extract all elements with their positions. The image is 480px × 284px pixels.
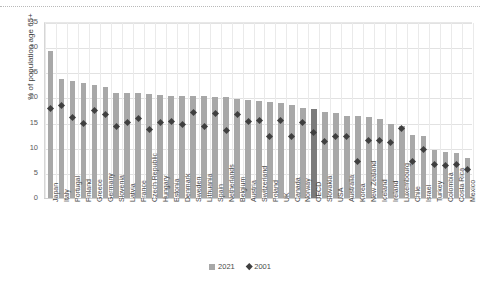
- gridline-vertical: [199, 23, 200, 198]
- x-axis-tick-label: Iceland: [381, 179, 388, 202]
- chart-legend: 2021 2001: [0, 262, 480, 271]
- gridline-vertical: [385, 23, 386, 198]
- x-axis-tick-label: Latvia: [129, 183, 136, 202]
- gridline-vertical: [297, 23, 298, 198]
- gridline-vertical: [56, 23, 57, 198]
- y-axis-tick-label: 25: [16, 68, 38, 76]
- gridline-vertical: [89, 23, 90, 198]
- x-axis-tick-label: Korea: [359, 183, 366, 202]
- x-axis-tick-label: Mexico: [469, 180, 476, 202]
- x-axis-tick-label: Germany: [107, 173, 114, 202]
- x-axis-tick-label: Poland: [272, 180, 279, 202]
- x-axis-tick-label: UK: [283, 192, 290, 202]
- gridline-vertical: [363, 23, 364, 198]
- gridline-vertical: [341, 23, 342, 198]
- x-axis-tick-label: Portugal: [74, 176, 81, 202]
- y-axis-tick-label: 5: [16, 169, 38, 177]
- gridline-vertical: [166, 23, 167, 198]
- x-axis-tick-label: Finland: [85, 179, 92, 202]
- gridline-vertical: [188, 23, 189, 198]
- y-axis-tick-label: 20: [16, 93, 38, 101]
- x-axis-tick-label: Italy: [63, 189, 70, 202]
- gridline-vertical: [243, 23, 244, 198]
- y-axis-tick-label: 35: [16, 18, 38, 26]
- x-axis-tick-label: OECD: [315, 182, 322, 202]
- x-axis-tick-label: Switzerland: [261, 166, 268, 202]
- gridline-vertical: [111, 23, 112, 198]
- bar-italy: [59, 79, 65, 198]
- gridline-vertical: [67, 23, 68, 198]
- x-axis-tick-label: Turkey: [436, 181, 443, 202]
- bar-usa: [333, 113, 339, 198]
- legend-label-2001: 2001: [254, 262, 271, 271]
- x-axis-tick-label: Spain: [217, 184, 224, 202]
- legend-item-2021: 2021: [209, 262, 235, 271]
- legend-item-2001: 2001: [247, 262, 271, 271]
- y-axis-tick-label: 0: [16, 194, 38, 202]
- bar-japan: [48, 51, 54, 198]
- x-axis-tick-label: USA: [337, 188, 344, 202]
- gridline-vertical: [133, 23, 134, 198]
- legend-label-2021: 2021: [218, 262, 235, 271]
- gridline-vertical: [45, 23, 46, 198]
- y-axis-tick-label: 30: [16, 43, 38, 51]
- gridline-vertical: [144, 23, 145, 198]
- gridline-vertical: [286, 23, 287, 198]
- legend-swatch-diamond-icon: [246, 263, 252, 269]
- x-axis-tick-label: Czech Republic: [151, 153, 158, 202]
- y-axis-tick-label: 15: [16, 119, 38, 127]
- x-axis-tick-label: Slovenia: [118, 175, 125, 202]
- x-axis-tick-label: Greece: [96, 179, 103, 202]
- gridline-vertical: [330, 23, 331, 198]
- gridline-vertical: [221, 23, 222, 198]
- x-axis-tick-label: Chile: [414, 186, 421, 202]
- x-axis-tick-label: France: [140, 180, 147, 202]
- x-axis-tick-label: Belgium: [239, 177, 246, 202]
- gridline-vertical: [275, 23, 276, 198]
- x-axis-tick-label: Denmark: [184, 174, 191, 202]
- x-axis-tick-label: Norway: [304, 178, 311, 202]
- x-axis-tick-label: Luxembourg: [403, 163, 410, 202]
- gridline-vertical: [473, 23, 474, 198]
- chart-screenshot: % of population age 65+ 05101520253035 J…: [0, 0, 480, 284]
- gridline-vertical: [396, 23, 397, 198]
- gridline-vertical: [352, 23, 353, 198]
- top-dotted-rule: [0, 6, 480, 7]
- gridline-vertical: [100, 23, 101, 198]
- gridline-vertical: [418, 23, 419, 198]
- gridline-vertical: [429, 23, 430, 198]
- x-axis-tick-label: Costa Rica: [458, 168, 465, 202]
- gridline-vertical: [78, 23, 79, 198]
- gridline-vertical: [210, 23, 211, 198]
- x-axis-tick-label: Japan: [52, 183, 59, 202]
- x-axis-tick-label: Netherlands: [228, 164, 235, 202]
- gridline-vertical: [319, 23, 320, 198]
- legend-swatch-bar-icon: [209, 264, 215, 270]
- x-axis-tick-label: Hungary: [162, 176, 169, 202]
- gridline-vertical: [254, 23, 255, 198]
- x-axis-tick-label: Austria: [250, 180, 257, 202]
- x-axis-tick-label: Lithuania: [206, 174, 213, 202]
- gridline-vertical: [308, 23, 309, 198]
- x-axis-tick-label: Slovakia: [326, 176, 333, 202]
- x-axis-tick-label: Estonia: [173, 179, 180, 202]
- gridline-vertical: [440, 23, 441, 198]
- x-axis-tick-label: New Zealand: [370, 161, 377, 202]
- gridline-vertical: [177, 23, 178, 198]
- x-axis-tick-label: Ireland: [392, 181, 399, 202]
- x-axis-tick-label: Canada: [294, 177, 301, 202]
- y-axis-tick-label: 10: [16, 144, 38, 152]
- x-axis-tick-label: Australia: [348, 175, 355, 202]
- x-axis-tick-label: Colombia: [447, 172, 454, 202]
- x-axis-tick-label: Sweden: [195, 177, 202, 202]
- gridline-vertical: [122, 23, 123, 198]
- x-axis-tick-label: Israel: [425, 185, 432, 202]
